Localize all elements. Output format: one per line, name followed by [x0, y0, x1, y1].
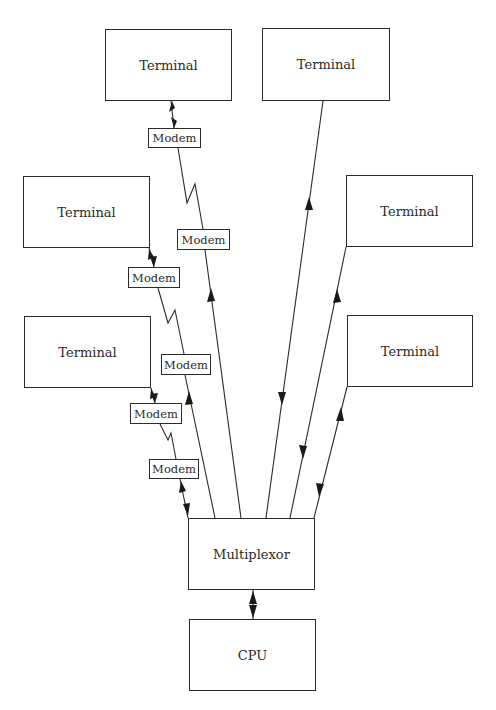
multiplexor-label: Multiplexor: [213, 547, 290, 562]
cpu-box: CPU: [189, 619, 316, 691]
phone-line-m1-m2: [178, 148, 203, 229]
phone-line-m3-m4: [158, 288, 184, 354]
link-t6-mux: [314, 387, 347, 518]
modem-box-5: Modem: [130, 403, 182, 424]
modem-label: Modem: [134, 407, 178, 421]
terminal-label: Terminal: [380, 204, 438, 219]
link-t2-mux: [266, 101, 323, 518]
phone-line-m5-m6: [160, 424, 176, 459]
modem-label: Modem: [182, 233, 226, 247]
multiplexor-box: Multiplexor: [188, 518, 315, 590]
modem-label: Modem: [164, 358, 208, 372]
link-t4-mux: [290, 247, 346, 518]
cpu-label: CPU: [238, 648, 267, 663]
terminal-box-3: Terminal: [23, 176, 150, 248]
terminal-label: Terminal: [139, 58, 197, 73]
terminal-box-4: Terminal: [346, 175, 473, 247]
modem-label: Modem: [153, 131, 197, 145]
terminal-label: Terminal: [58, 345, 116, 360]
terminal-label: Terminal: [57, 205, 115, 220]
terminal-label: Terminal: [297, 57, 355, 72]
terminal-box-2: Terminal: [262, 28, 390, 101]
modem-label: Modem: [132, 271, 176, 285]
terminal-box-6: Terminal: [347, 315, 473, 387]
modem-box-4: Modem: [161, 354, 211, 375]
modem-label: Modem: [152, 462, 196, 476]
modem-box-1: Modem: [148, 128, 201, 148]
terminal-label: Terminal: [381, 344, 439, 359]
modem-box-3: Modem: [128, 267, 180, 288]
terminal-box-1: Terminal: [105, 29, 232, 101]
terminal-box-5: Terminal: [24, 316, 151, 388]
modem-box-2: Modem: [177, 229, 230, 250]
modem-box-6: Modem: [149, 459, 199, 479]
